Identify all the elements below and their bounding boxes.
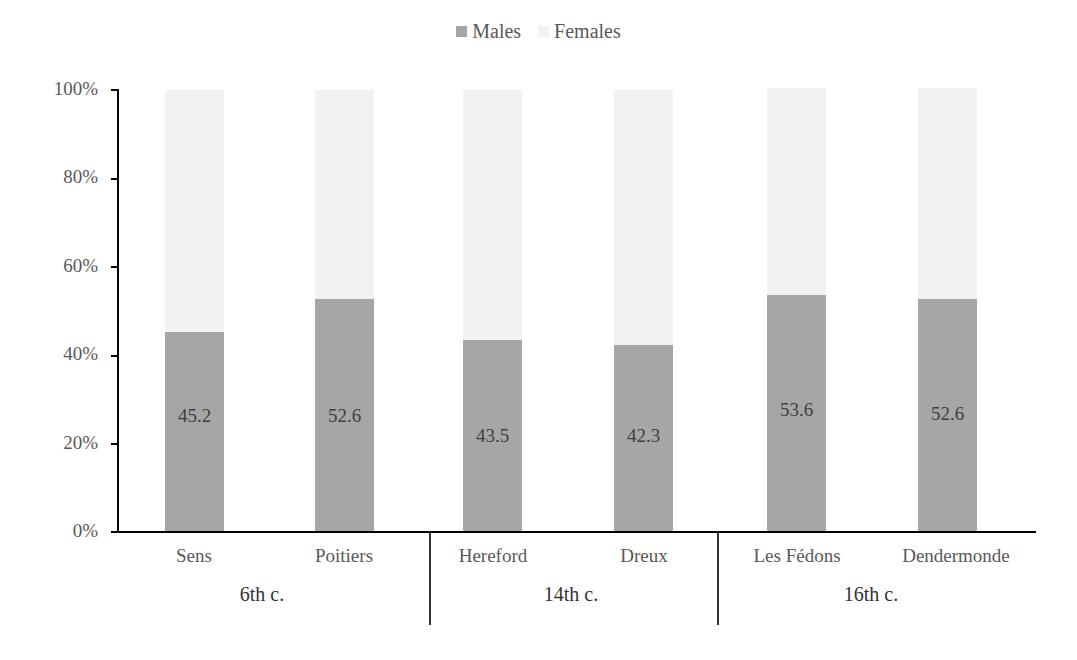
data-label: 52.6: [898, 403, 997, 425]
y-tick-label: 60%: [20, 255, 98, 277]
group-separator: [429, 533, 431, 625]
bar-segment-females: [767, 88, 826, 295]
y-tick-label: 0%: [20, 520, 98, 542]
x-axis: [111, 531, 1036, 533]
males-swatch-icon: [456, 26, 467, 37]
data-label: 52.6: [295, 405, 394, 427]
bar-segment-females: [165, 90, 224, 332]
legend-item-males: Males: [456, 20, 521, 43]
y-tick-label: 20%: [20, 432, 98, 454]
bar-segment-females: [315, 90, 374, 299]
group-label: 14th c.: [471, 583, 671, 606]
y-tick-label: 100%: [20, 78, 98, 100]
x-category-label: Les Fédons: [717, 545, 877, 567]
group-separator: [717, 533, 719, 625]
bar-segment-females: [614, 90, 673, 345]
females-swatch-icon: [538, 26, 549, 37]
bar-poitiers: 52.6: [315, 90, 374, 532]
y-axis: [117, 89, 119, 533]
group-label: 6th c.: [162, 583, 362, 606]
data-label: 45.2: [145, 405, 244, 427]
x-category-label: Sens: [114, 545, 274, 567]
data-label: 42.3: [594, 425, 693, 447]
bar-les-fedons: 53.6: [767, 88, 826, 532]
x-category-label: Dreux: [564, 545, 724, 567]
legend-item-females: Females: [538, 20, 621, 43]
legend: Males Females: [0, 20, 1077, 43]
bar-segment-males: [165, 332, 224, 532]
x-category-label: Poitiers: [264, 545, 424, 567]
bar-sens: 45.2: [165, 90, 224, 532]
bar-segment-females: [918, 88, 977, 299]
bar-dendermonde: 52.6: [918, 88, 977, 532]
x-category-label: Dendermonde: [876, 545, 1036, 567]
bar-dreux: 42.3: [614, 90, 673, 532]
data-label: 43.5: [443, 425, 542, 447]
x-category-label: Hereford: [413, 545, 573, 567]
bar-segment-females: [463, 90, 522, 340]
data-label: 53.6: [747, 399, 846, 421]
y-tick-label: 80%: [20, 166, 98, 188]
group-label: 16th c.: [771, 583, 971, 606]
bar-hereford: 43.5: [463, 90, 522, 532]
y-tick-label: 40%: [20, 343, 98, 365]
